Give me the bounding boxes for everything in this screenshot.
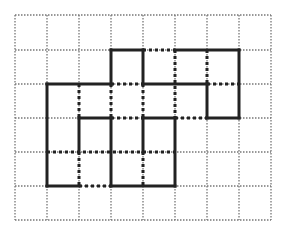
- diagram-svg: [0, 0, 286, 232]
- grid-diagram: [0, 0, 286, 232]
